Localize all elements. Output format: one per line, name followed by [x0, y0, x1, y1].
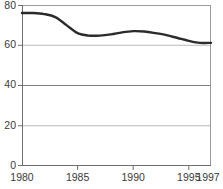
line-chart: 80 60 40 20 0 1980 1985 1990 1995 1997: [0, 0, 223, 189]
x-tick-marks: [78, 166, 189, 170]
y-tick-label-80: 80: [0, 0, 16, 11]
y-tick-label-40: 40: [0, 79, 16, 90]
y-tick-label-20: 20: [0, 120, 16, 131]
y-tick-label-60: 60: [0, 39, 16, 50]
x-tick-label-1980: 1980: [5, 172, 39, 183]
y-tick-label-0: 0: [0, 160, 16, 171]
x-tick-label-1985: 1985: [61, 172, 95, 183]
y-tick-marks: [18, 6, 22, 166]
chart-canvas: [0, 0, 223, 189]
x-tick-label-1990: 1990: [116, 172, 150, 183]
x-tick-label-1997: 1997: [191, 172, 223, 183]
